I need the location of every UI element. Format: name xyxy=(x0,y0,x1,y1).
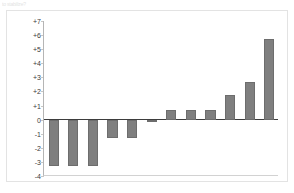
scan-edge-text-fragment: to stabilize? xyxy=(2,0,62,8)
y-axis-tick-label: -1 xyxy=(25,130,41,137)
y-axis-tick-label: +3 xyxy=(25,74,41,81)
y-axis-tick-mark xyxy=(41,176,44,177)
bar xyxy=(88,120,98,167)
y-axis-tick-label: -3 xyxy=(25,158,41,165)
bar xyxy=(127,120,137,138)
y-axis-tick-label: +4 xyxy=(25,60,41,67)
bar xyxy=(68,120,78,167)
plot-area xyxy=(44,21,278,175)
plot-frame xyxy=(43,21,278,176)
y-axis-tick-label: -2 xyxy=(25,144,41,151)
y-axis-tick-label: +6 xyxy=(25,32,41,39)
y-axis: +7+6+5+4+3+2+10-1-2-3-4 xyxy=(19,21,41,176)
bar xyxy=(147,120,157,123)
bar xyxy=(245,82,255,120)
bar xyxy=(166,110,176,120)
y-axis-tick-label: +7 xyxy=(25,18,41,25)
y-axis-tick-label: -4 xyxy=(25,173,41,180)
y-axis-tick-label: +5 xyxy=(25,46,41,53)
y-axis-tick-label: +2 xyxy=(25,88,41,95)
bar xyxy=(264,39,274,119)
bar xyxy=(186,110,196,120)
y-axis-tick-label: 0 xyxy=(25,116,41,123)
y-axis-tick-label: +1 xyxy=(25,102,41,109)
bar xyxy=(205,110,215,120)
bar xyxy=(225,95,235,120)
bar-series xyxy=(44,21,278,175)
chart-figure-card: Days to ship relative to (plus or minus)… xyxy=(6,10,288,182)
bar xyxy=(49,120,59,167)
bar xyxy=(107,120,117,138)
